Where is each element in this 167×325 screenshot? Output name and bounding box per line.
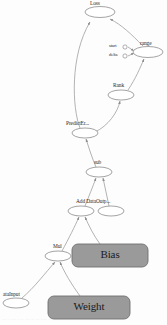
node-sub[interactable] bbox=[86, 167, 112, 177]
graph-svg bbox=[0, 0, 167, 325]
graph-canvas[interactable]: Loss range Rank PredictEr... sub Add Dat… bbox=[0, 0, 167, 325]
box-label-weight: Weight bbox=[48, 301, 130, 312]
node-mul[interactable] bbox=[45, 251, 71, 261]
edge-predicterr-to-rank bbox=[95, 101, 120, 132]
edge-bias-to-add bbox=[85, 217, 100, 244]
node-dataoutput[interactable] bbox=[98, 206, 124, 216]
node-add[interactable] bbox=[68, 206, 94, 216]
port-label-delta: delta bbox=[109, 53, 117, 58]
port-start-circle[interactable] bbox=[123, 45, 127, 49]
edge-datainput-to-mul bbox=[22, 262, 55, 298]
footer-text-fragment: ··· · ··· · ·· ··· ·· ·· ···· ·· ·· ··· … bbox=[2, 317, 165, 324]
node-rank[interactable] bbox=[108, 90, 134, 100]
port-delta-circle[interactable] bbox=[123, 54, 127, 58]
node-datainput[interactable] bbox=[3, 298, 29, 308]
node-label-loss: Loss bbox=[90, 1, 100, 6]
node-label-predicterr: PredictEr... bbox=[66, 121, 89, 126]
edge-start-to-range bbox=[128, 47, 134, 51]
node-range[interactable] bbox=[133, 47, 163, 58]
node-loss[interactable] bbox=[85, 7, 115, 18]
node-predicterr[interactable] bbox=[72, 128, 98, 138]
box-label-bias: Bias bbox=[72, 249, 148, 260]
edge-range-to-loss bbox=[110, 19, 143, 46]
node-label-sub: sub bbox=[94, 160, 101, 165]
edge-predicterr-to-loss bbox=[74, 22, 90, 128]
node-label-range: range bbox=[140, 41, 151, 46]
node-label-add-dataoutput: Add DataOutp... bbox=[76, 199, 110, 204]
node-label-mul: Mul bbox=[53, 244, 62, 249]
port-label-start: start bbox=[109, 44, 116, 49]
edge-rank-to-range bbox=[128, 59, 144, 90]
node-label-datainput: ataInput bbox=[3, 292, 20, 297]
input-port-layer bbox=[123, 45, 127, 58]
node-label-rank: Rank bbox=[113, 83, 124, 88]
